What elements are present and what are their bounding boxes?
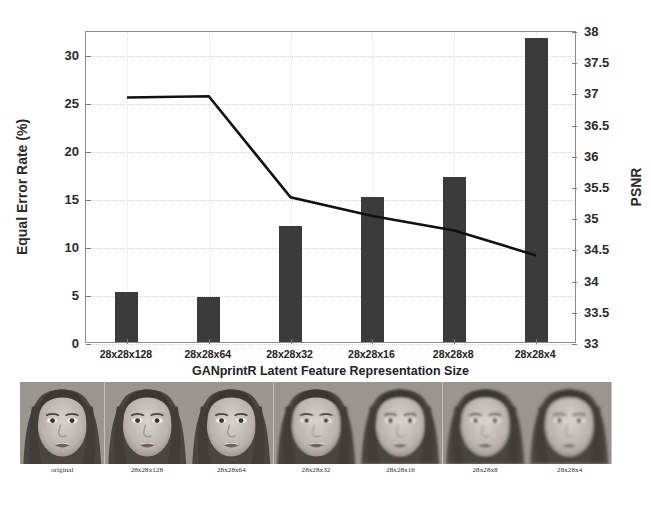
face-image (274, 382, 359, 464)
tick-mark (291, 339, 292, 344)
psnr-line-series (86, 32, 577, 344)
left-axis-tick-label: 25 (37, 96, 79, 111)
tick-mark (454, 339, 455, 344)
tick-mark (536, 339, 537, 344)
right-axis-tick-label: 36.5 (584, 117, 630, 132)
face-image (20, 382, 105, 464)
left-axis-tick-label: 0 (37, 336, 79, 351)
face-image-cell (274, 382, 359, 464)
right-axis-tick-label: 34 (584, 273, 630, 288)
face-image-cell (20, 382, 105, 464)
right-axis-tick-label: 38 (584, 24, 630, 39)
left-axis-tick-label: 5 (37, 288, 79, 303)
face-image-cell (358, 382, 443, 464)
left-axis-title-wrap: Equal Error Rate (%) (28, 31, 29, 343)
tick-mark (572, 313, 577, 314)
right-axis-tick-label: 37.5 (584, 55, 630, 70)
x-axis-tick-label: 28x28x16 (348, 348, 395, 360)
tick-mark (572, 344, 577, 345)
tick-mark (86, 344, 91, 345)
face-image (358, 382, 443, 464)
x-axis-tick-label: 28x28x64 (184, 348, 231, 360)
face-image-caption: 28x28x32 (274, 466, 359, 484)
tick-mark (572, 126, 577, 127)
face-image-cell (189, 382, 274, 464)
face-image-caption: 28x28x8 (443, 466, 528, 484)
tick-mark (572, 94, 577, 95)
face-image-caption: 28x28x4 (527, 466, 612, 484)
face-image-caption: original (20, 466, 105, 484)
face-image-cell (527, 382, 612, 464)
face-image-cell (443, 382, 528, 464)
right-axis-tick-label: 37 (584, 86, 630, 101)
tick-mark (572, 157, 577, 158)
tick-mark (572, 282, 577, 283)
left-axis-tick-label: 15 (37, 192, 79, 207)
tick-mark (86, 296, 91, 297)
left-axis-tick-label: 10 (37, 240, 79, 255)
face-image-caption: 28x28x16 (358, 466, 443, 484)
chart-area: 051015202530 3333.53434.53535.53636.5373… (0, 0, 651, 380)
tick-mark (572, 63, 577, 64)
face-image-caption: 28x28x64 (189, 466, 274, 484)
face-image (527, 382, 612, 464)
tick-mark (572, 32, 577, 33)
figure: 051015202530 3333.53434.53535.53636.5373… (0, 0, 651, 508)
right-axis-tick-label: 34.5 (584, 242, 630, 257)
right-axis-tick-label: 33.5 (584, 304, 630, 319)
plot-area (85, 31, 576, 343)
tick-mark (86, 56, 91, 57)
face-image (189, 382, 274, 464)
x-axis-tick-label: 28x28x4 (515, 348, 556, 360)
right-axis-tick-label: 35 (584, 211, 630, 226)
gridline (86, 344, 575, 345)
tick-mark (572, 219, 577, 220)
face-image (105, 382, 190, 464)
tick-mark (127, 339, 128, 344)
right-axis-tick-label: 33 (584, 336, 630, 351)
tick-mark (572, 188, 577, 189)
left-axis-title: Equal Error Rate (%) (14, 119, 30, 255)
tick-mark (86, 104, 91, 105)
tick-mark (372, 339, 373, 344)
face-image-caption: 28x28x128 (105, 466, 190, 484)
face-image-cell (105, 382, 190, 464)
x-axis-title: GANprintR Latent Feature Representation … (85, 364, 576, 378)
left-axis-tick-label: 30 (37, 48, 79, 63)
tick-mark (86, 248, 91, 249)
tick-mark (209, 339, 210, 344)
right-axis-title-wrap: PSNR (636, 31, 637, 343)
face-image-strip-captions: original28x28x12828x28x6428x28x3228x28x1… (20, 466, 612, 484)
face-image (443, 382, 528, 464)
right-axis-tick-label: 36 (584, 148, 630, 163)
tick-mark (572, 250, 577, 251)
x-axis-tick-label: 28x28x32 (266, 348, 313, 360)
right-axis-title: PSNR (628, 168, 644, 207)
x-axis-tick-label: 28x28x8 (433, 348, 474, 360)
tick-mark (86, 152, 91, 153)
tick-mark (86, 200, 91, 201)
right-axis-tick-label: 35.5 (584, 180, 630, 195)
face-image-strip (20, 382, 612, 464)
x-axis-tick-label: 28x28x128 (100, 348, 153, 360)
left-axis-tick-label: 20 (37, 144, 79, 159)
